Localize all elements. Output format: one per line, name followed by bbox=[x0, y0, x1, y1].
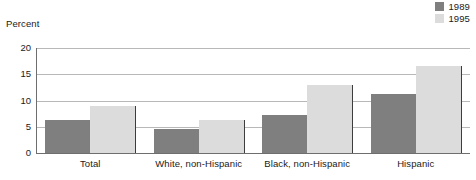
bar bbox=[307, 85, 353, 153]
x-category-label: Total bbox=[80, 158, 101, 169]
x-category-label: Black, non-Hispanic bbox=[264, 158, 350, 169]
y-tick-label: 20 bbox=[20, 43, 31, 53]
y-tick-label: 10 bbox=[20, 96, 31, 106]
x-axis-line bbox=[36, 153, 470, 154]
plot-area: 05101520 bbox=[36, 48, 470, 153]
x-category-label: Hispanic bbox=[397, 158, 434, 169]
y-tick-label: 5 bbox=[26, 122, 31, 132]
x-axis-category-labels: TotalWhite, non-HispanicBlack, non-Hispa… bbox=[36, 158, 470, 174]
legend-item-1989: 1989 bbox=[435, 1, 470, 12]
bar bbox=[199, 120, 245, 153]
y-tick-label: 0 bbox=[26, 148, 31, 158]
y-tick-label: 15 bbox=[20, 69, 31, 79]
bar bbox=[262, 115, 308, 153]
legend-label-1995: 1995 bbox=[448, 14, 470, 24]
bars-layer bbox=[36, 48, 470, 153]
legend-swatch-1989 bbox=[435, 2, 444, 11]
bar bbox=[90, 106, 136, 153]
bar bbox=[154, 129, 200, 153]
bar-chart-figure: 1989 1995 Percent 05101520 TotalWhite, n… bbox=[0, 0, 476, 180]
y-axis-title: Percent bbox=[6, 18, 39, 29]
bar bbox=[371, 94, 417, 153]
bar bbox=[45, 120, 91, 153]
legend-swatch-1995 bbox=[435, 14, 444, 23]
chart-legend: 1989 1995 bbox=[435, 1, 470, 24]
bar bbox=[416, 66, 462, 153]
legend-item-1995: 1995 bbox=[435, 13, 470, 24]
legend-label-1989: 1989 bbox=[448, 2, 470, 12]
x-category-label: White, non-Hispanic bbox=[155, 158, 242, 169]
